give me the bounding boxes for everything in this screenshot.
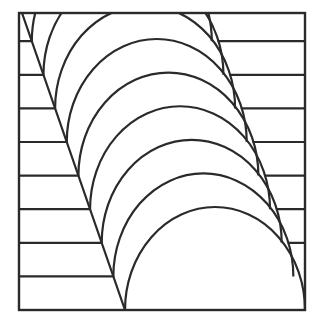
arc-7 — [43, 0, 223, 75]
arc-9 — [20, 0, 200, 8]
arc-8 — [32, 0, 212, 41]
arc-diagram — [0, 0, 322, 327]
diagonal-line — [22, 13, 125, 310]
arc-0 — [125, 207, 305, 310]
diagram-canvas — [0, 0, 322, 327]
diagram-content — [19, 0, 305, 310]
square-frame — [19, 13, 305, 310]
